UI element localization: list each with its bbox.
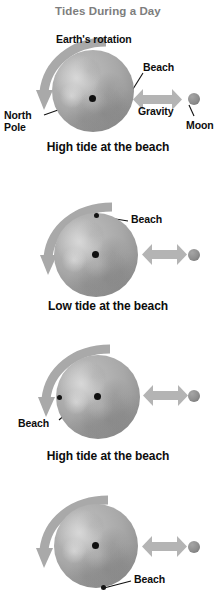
beach-label: Beach (134, 574, 165, 586)
earth-center-dot (89, 95, 96, 102)
moon-sphere (188, 249, 200, 261)
moon-leader-line (189, 105, 194, 116)
earth-rotation-label: Earth's rotation (56, 34, 132, 46)
north-pole-label-line1: North (4, 110, 32, 122)
north-pole-label-line2: Pole (4, 122, 26, 134)
gravity-arrow (142, 244, 187, 265)
panel-low-tide: Beach Low tide at the beach (0, 165, 216, 315)
beach-dot (101, 585, 106, 590)
gravity-arrow (142, 536, 187, 557)
beach-label: Beach (143, 62, 174, 74)
beach-dot (94, 213, 99, 218)
earth-sphere (52, 50, 134, 132)
beach-label: Beach (18, 418, 49, 430)
beach-dot (57, 395, 62, 400)
panel-2-caption: Low tide at the beach (0, 299, 216, 313)
gravity-label: Gravity (138, 106, 174, 118)
tides-figure: Tides During a Day (0, 0, 216, 603)
moon-sphere (188, 541, 200, 553)
moon-sphere (188, 390, 200, 402)
moon-sphere (188, 93, 200, 105)
panel-high-tide-2: Beach High tide at the beach (0, 325, 216, 470)
panel-1-caption: High tide at the beach (0, 140, 216, 154)
earth-center-dot (94, 393, 101, 400)
earth-center-dot (92, 542, 99, 549)
gravity-arrow (143, 385, 188, 406)
panel-high-tide-1: Earth's rotation Beach North Pole Gravit… (0, 0, 216, 160)
beach-label: Beach (131, 214, 162, 226)
panel-3-caption: High tide at the beach (0, 449, 216, 463)
earth-center-dot (92, 251, 99, 258)
moon-label: Moon (186, 120, 214, 132)
panel-low-tide-2: Beach (0, 480, 216, 603)
